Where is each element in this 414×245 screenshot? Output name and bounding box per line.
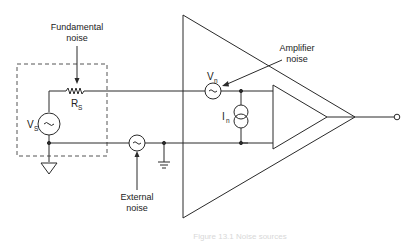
in-subscript-label: n: [226, 117, 230, 124]
source-ground-icon: [41, 163, 57, 174]
vs-subscript-label: S: [34, 125, 39, 132]
external-noise-label-line1: External: [120, 192, 153, 202]
vs-symbol-label: V: [27, 119, 34, 130]
vn-symbol-label: V: [207, 71, 214, 82]
in-current-source-icon: [234, 105, 248, 119]
fundamental-noise-arrowhead: [75, 78, 80, 84]
resistor-rs-symbol: [66, 88, 84, 94]
ideal-amplifier-triangle: [273, 85, 327, 149]
vn-ac-glyph-icon: [209, 90, 217, 93]
external-ac-glyph-icon: [133, 142, 141, 145]
source-enclosure-box: [17, 64, 107, 156]
external-noise-arrowhead: [135, 151, 140, 157]
source-top-wire: [49, 91, 66, 112]
noise-circuit-diagram: Fundamental noise R S V S External noise…: [0, 0, 414, 245]
output-terminal-icon: [394, 114, 400, 120]
in-symbol-label: I: [222, 111, 225, 122]
amplifier-noise-arrowhead: [222, 81, 229, 87]
vn-subscript-label: n: [214, 77, 218, 84]
external-noise-label-line2: noise: [126, 203, 148, 213]
fundamental-noise-label-line2: noise: [66, 33, 88, 43]
figure-caption: Figure 13.1 Noise sources: [193, 232, 286, 241]
amplifier-noise-label-line1: Amplifier: [279, 43, 314, 53]
in-current-source-icon-lower: [234, 114, 248, 128]
rs-subscript-label: S: [78, 104, 83, 111]
fundamental-noise-label-line1: Fundamental: [51, 22, 104, 32]
amplifier-noise-arrow: [225, 60, 282, 85]
vs-ac-glyph-icon: [44, 123, 54, 126]
amplifier-noise-label-line2: noise: [286, 54, 308, 64]
